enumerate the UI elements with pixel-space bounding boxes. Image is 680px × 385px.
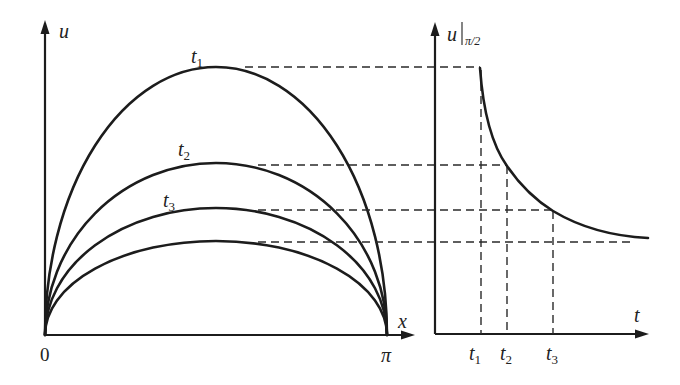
left-panel: u x 0 π t1 t2 t3 — [40, 20, 415, 366]
curve-label-t1: t1 — [191, 45, 203, 70]
midpoint-decay-curve — [480, 68, 648, 238]
profile-curve-t4 — [45, 241, 387, 335]
left-y-axis-label: u — [59, 20, 69, 42]
curve-label-t1-sub: 1 — [197, 55, 204, 70]
left-x-axis-label: x — [397, 310, 407, 332]
curve-label-t3-sub: 3 — [169, 199, 176, 214]
profile-curve-t3 — [45, 208, 387, 335]
curve-label-t2-sub: 2 — [184, 148, 191, 163]
left-y-axis-arrow-icon — [41, 20, 50, 34]
tick-label-t3-sub: 3 — [552, 352, 559, 367]
right-y-axis-arrow-icon — [431, 22, 440, 36]
tick-label-t1: t1 — [469, 342, 481, 367]
curve-label-t2: t2 — [178, 138, 190, 163]
pi-label: π — [381, 344, 392, 366]
right-x-axis-label: t — [634, 304, 640, 326]
right-y-axis-subscript: π/2 — [465, 34, 480, 48]
tick-label-t2-sub: 2 — [506, 352, 513, 367]
right-y-axis-label: u — [447, 23, 457, 45]
tick-label-t1-sub: 1 — [475, 352, 482, 367]
origin-label: 0 — [40, 344, 50, 365]
profile-curve-t2 — [45, 163, 387, 335]
right-y-axis-subscript-text: π/2 — [465, 34, 480, 48]
tick-label-t3: t3 — [546, 342, 558, 367]
peak-projection-lines — [245, 67, 632, 242]
profile-curve-t1 — [45, 67, 387, 335]
heat-profile-figure: u x 0 π t1 t2 t3 u — [0, 0, 680, 385]
curve-label-t3: t3 — [163, 189, 175, 214]
tick-label-t2: t2 — [500, 342, 512, 367]
right-x-axis-arrow-icon — [635, 330, 649, 339]
right-panel: u π/2 t t1 t2 t3 — [431, 22, 650, 367]
